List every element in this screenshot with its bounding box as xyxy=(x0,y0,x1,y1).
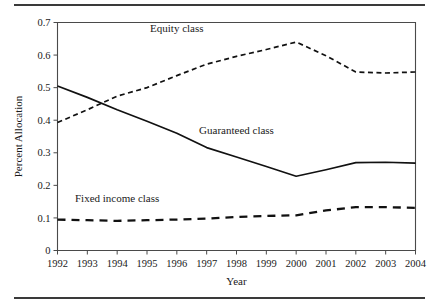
x-tick-label: 2003 xyxy=(375,258,396,269)
x-tick-label: 1995 xyxy=(137,258,158,269)
y-axis-title: Percent Allocation xyxy=(12,95,24,177)
y-tick-label: 0.3 xyxy=(37,147,50,158)
x-axis-title: Year xyxy=(226,275,247,287)
series-line-fixed-income-class xyxy=(58,207,416,221)
x-tick-label: 1994 xyxy=(107,258,129,269)
x-axis-ticks xyxy=(58,251,416,255)
figure-container: 00.10.20.30.40.50.60.7 19921993199419951… xyxy=(0,0,439,308)
x-tick-label: 2001 xyxy=(316,258,337,269)
x-tick-label: 1992 xyxy=(47,258,68,269)
y-axis-ticks xyxy=(54,23,58,251)
series-annotation-fixed-income-class: Fixed income class xyxy=(75,192,159,204)
x-tick-label: 1993 xyxy=(77,258,98,269)
series-line-equity-class xyxy=(58,42,416,122)
line-chart: 00.10.20.30.40.50.60.7 19921993199419951… xyxy=(0,0,439,308)
x-tick-label: 1998 xyxy=(226,258,247,269)
y-tick-label: 0.4 xyxy=(37,115,51,126)
x-tick-label: 1999 xyxy=(256,258,277,269)
y-tick-label: 0.6 xyxy=(37,50,50,61)
y-tick-label: 0.2 xyxy=(37,180,50,191)
y-axis-tick-labels: 00.10.20.30.40.50.60.7 xyxy=(37,17,51,256)
x-axis-tick-labels: 1992199319941995199619971998199920002001… xyxy=(47,258,427,269)
y-tick-label: 0 xyxy=(45,245,50,256)
y-tick-label: 0.5 xyxy=(37,82,50,93)
x-tick-label: 2004 xyxy=(405,258,427,269)
x-tick-label: 1996 xyxy=(166,258,187,269)
series-annotation-equity-class: Equity class xyxy=(150,22,203,34)
x-tick-label: 1997 xyxy=(196,258,217,269)
y-tick-label: 0.1 xyxy=(37,213,50,224)
x-tick-label: 2002 xyxy=(345,258,366,269)
x-tick-label: 2000 xyxy=(286,258,307,269)
series-annotation-guaranteed-class: Guaranteed class xyxy=(199,124,274,136)
y-tick-label: 0.7 xyxy=(37,17,50,28)
